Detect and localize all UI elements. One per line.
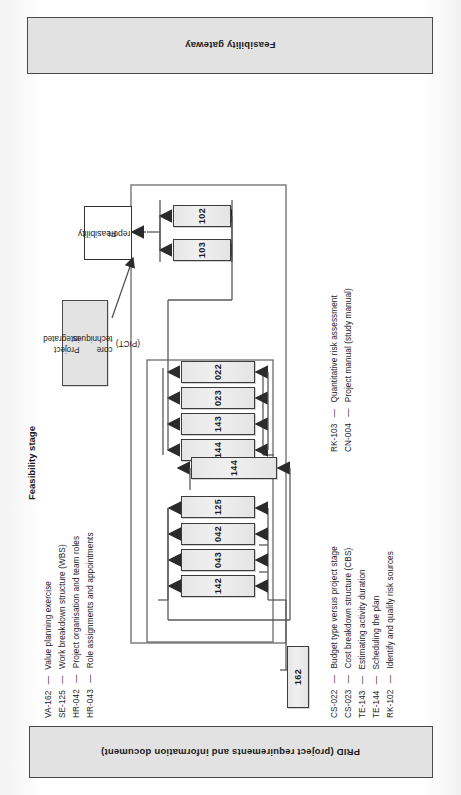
legend-text: Quantitative risk assessment: [330, 295, 339, 402]
report-line-2: report: [100, 228, 138, 239]
node-label: 143: [213, 416, 223, 432]
node-label: 043: [213, 552, 223, 568]
legend-code: CS-023: [344, 690, 353, 718]
node-162[interactable]: 162: [287, 646, 309, 708]
legend-dash: —: [58, 671, 67, 687]
node-023[interactable]: 023: [181, 387, 255, 409]
node-label: 162: [293, 669, 303, 685]
feasibility-gateway-banner: Feasibility gateway: [27, 17, 433, 74]
legend-dash: —: [330, 671, 339, 687]
legend-code: TE-144: [372, 691, 381, 718]
legend-text: Project manual (study manual): [344, 288, 353, 402]
node-label: 023: [213, 390, 223, 406]
legend-right-item-0: CS-022 — Budget type versus project stag…: [330, 546, 339, 718]
node-label: 103: [197, 242, 207, 258]
node-125[interactable]: 125: [181, 496, 255, 518]
legend-dash: —: [386, 671, 395, 687]
node-label: 142: [213, 578, 223, 594]
pict-line-3: (PICT): [96, 338, 140, 349]
legend-right-item-2: TE-143 — Estimating activity duration: [358, 569, 367, 718]
legend-left-item-2: HR-042 — Project organisation and team r…: [72, 536, 81, 718]
node-label: 125: [213, 499, 223, 515]
legend-dash: —: [344, 405, 353, 421]
legend-code: CN-004: [344, 423, 353, 452]
legend-left-item-3: HR-043 — Role assignments and appointmen…: [86, 532, 95, 718]
node-103[interactable]: 103: [173, 239, 231, 261]
prid-banner: PRID (project requirements and informati…: [29, 726, 433, 778]
legend-text: Role assignments and appointments: [86, 532, 95, 668]
node-142[interactable]: 142: [181, 575, 255, 597]
legend-dash: —: [372, 672, 381, 688]
legend-text: Work breakdown structure (WBS): [58, 544, 67, 669]
legend-code: TE-143: [358, 691, 367, 718]
legend-text: Cost breakdown structure (CBS): [344, 548, 353, 669]
node-label: 022: [213, 364, 223, 380]
legend-dash: —: [86, 671, 95, 687]
legend-dash: —: [344, 671, 353, 687]
legend-right-item-3: TE-144 — Scheduling the plan: [372, 596, 381, 718]
node-102[interactable]: 102: [173, 205, 231, 227]
legend-text: Project organisation and team roles: [72, 536, 81, 668]
legend-right-item-4: RK-102 — Identify and qualify risk sourc…: [386, 551, 395, 718]
legend-code: VA-162: [44, 691, 53, 718]
node-label: 102: [197, 208, 207, 224]
legend-dash: —: [72, 671, 81, 687]
feasibility-report-label: Feasibilityreport: [92, 214, 125, 252]
legend-code: HR-043: [86, 689, 95, 718]
legend-code: HR-042: [72, 689, 81, 718]
node-label: 042: [213, 526, 223, 542]
legend-dash: —: [358, 672, 367, 688]
pict-callout-box: Project integratedcore techniques(PICT): [62, 300, 108, 386]
legend-text: Scheduling the plan: [372, 596, 381, 670]
feasibility-report-box[interactable]: Feasibilityreport: [84, 206, 132, 260]
legend-left-item-1: SE-125 — Work breakdown structure (WBS): [58, 544, 67, 718]
prid-label: PRID (project requirements and informati…: [101, 747, 360, 758]
legend-left-item-0: VA-162 — Value planning exercise: [44, 581, 53, 718]
legend-far-right-item-1: CN-004 — Project manual (study manual): [344, 288, 353, 452]
node-label: 144: [229, 460, 239, 476]
legend-text: Budget type versus project stage: [330, 546, 339, 668]
legend-code: CS-022: [330, 690, 339, 718]
node-label: 144: [213, 442, 223, 458]
legend-code: RK-103: [330, 424, 339, 452]
node-143[interactable]: 143: [181, 413, 255, 435]
pict-callout-label: Project integratedcore techniques(PICT): [47, 321, 124, 365]
feasibility-stage-title: Feasibility stage: [26, 426, 37, 500]
legend-text: Estimating activity duration: [358, 569, 367, 669]
feasibility-gateway-label: Feasibility gateway: [185, 40, 275, 51]
node-022[interactable]: 022: [181, 361, 255, 383]
legend-code: RK-102: [386, 690, 395, 718]
legend-right-item-1: CS-023 — Cost breakdown structure (CBS): [344, 548, 353, 718]
legend-far-right-item-0: RK-103 — Quantitative risk assessment: [330, 295, 339, 452]
legend-dash: —: [330, 405, 339, 421]
node-042[interactable]: 042: [181, 523, 255, 545]
node-043[interactable]: 043: [181, 549, 255, 571]
legend-code: SE-125: [58, 690, 67, 718]
legend-text: Identify and qualify risk sources: [386, 551, 395, 669]
node-144-secondary[interactable]: 144: [191, 457, 277, 479]
legend-dash: —: [44, 672, 53, 688]
legend-text: Value planning exercise: [44, 581, 53, 670]
